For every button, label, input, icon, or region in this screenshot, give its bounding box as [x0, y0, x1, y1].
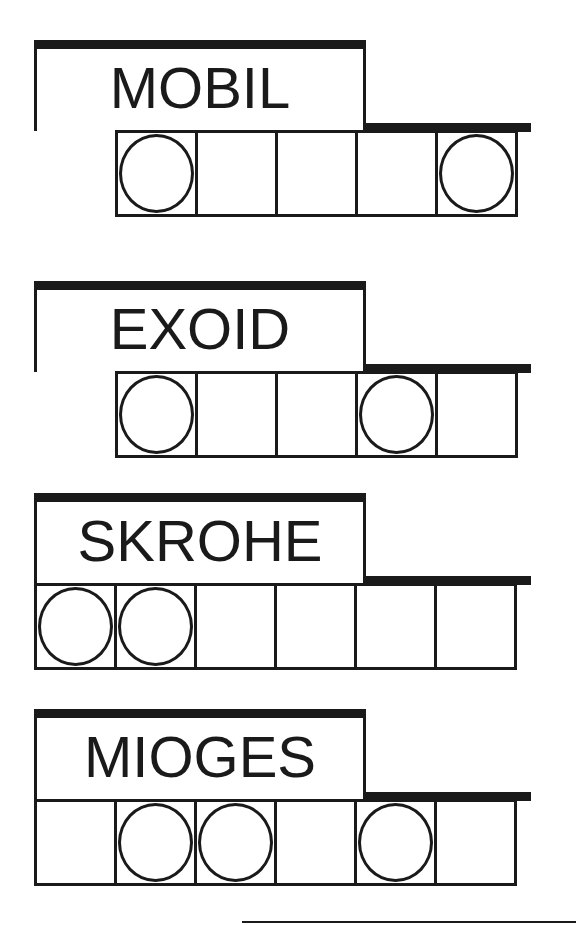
answer-cell-6[interactable]	[434, 583, 517, 670]
answer-cell-4[interactable]	[274, 799, 357, 886]
scrambled-word: MOBIL	[110, 59, 291, 117]
answer-cell-2[interactable]	[195, 130, 278, 217]
scrambled-word-box: MIOGES	[34, 709, 366, 800]
answer-cells	[115, 130, 518, 217]
scrambled-word: MIOGES	[84, 728, 316, 786]
answer-cell-3[interactable]	[194, 799, 277, 886]
scrambled-word: SKROHE	[78, 512, 323, 570]
scrambled-word-box: EXOID	[34, 281, 366, 372]
scrambled-word: EXOID	[110, 300, 291, 358]
answer-cell-3[interactable]	[275, 130, 358, 217]
circle-marker-icon	[359, 375, 434, 454]
scrambled-word-box: MOBIL	[34, 40, 366, 131]
answer-cell-1[interactable]	[115, 371, 198, 458]
answer-cell-2[interactable]	[114, 583, 197, 670]
scrambled-word-box: SKROHE	[34, 493, 366, 584]
answer-cell-6[interactable]	[434, 799, 517, 886]
circle-marker-icon	[118, 587, 193, 666]
answer-cell-5[interactable]	[354, 583, 437, 670]
answer-cells	[34, 799, 517, 886]
circle-marker-icon	[358, 803, 433, 882]
answer-cell-2[interactable]	[114, 799, 197, 886]
answer-cells	[115, 371, 518, 458]
answer-cell-3[interactable]	[194, 583, 277, 670]
answer-cell-3[interactable]	[275, 371, 358, 458]
circle-marker-icon	[119, 375, 194, 454]
answer-cell-1[interactable]	[34, 799, 117, 886]
answer-cell-4[interactable]	[355, 130, 438, 217]
answer-cell-2[interactable]	[195, 371, 278, 458]
answer-cells	[34, 583, 517, 670]
circle-marker-icon	[118, 803, 193, 882]
answer-cell-4[interactable]	[355, 371, 438, 458]
circle-marker-icon	[439, 134, 514, 213]
circle-marker-icon	[198, 803, 273, 882]
answer-cell-4[interactable]	[274, 583, 357, 670]
circle-marker-icon	[38, 587, 113, 666]
final-answer-line[interactable]	[242, 921, 576, 923]
answer-cell-1[interactable]	[34, 583, 117, 670]
answer-cell-5[interactable]	[435, 371, 518, 458]
answer-cell-1[interactable]	[115, 130, 198, 217]
answer-cell-5[interactable]	[354, 799, 437, 886]
circle-marker-icon	[119, 134, 194, 213]
answer-cell-5[interactable]	[435, 130, 518, 217]
